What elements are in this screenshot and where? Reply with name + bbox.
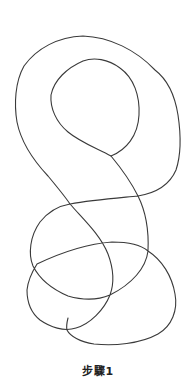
step-caption: 步驟1 [0, 362, 196, 378]
inner-top-loop [51, 59, 139, 156]
looped-line-drawing [0, 0, 196, 387]
descending-stroke [15, 36, 180, 345]
